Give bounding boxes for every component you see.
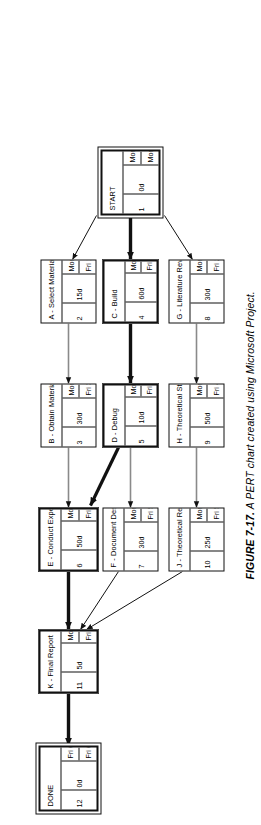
task-name: A - Select Materials [41,260,62,322]
task-id: 3 [62,426,95,446]
task-id: 2 [62,302,95,322]
edge-start-to-g [164,215,192,259]
task-name: B - Obtain Materials [41,384,62,446]
task-dates: Mon 1/1/01 Mon 1/1/01 [123,151,158,164]
task-start: Mon 3/26/01 [125,385,141,396]
task-finish: Fri 1/19/01 [79,260,95,273]
task-finish: Fri 3/2/01 [79,384,95,397]
task-fields: 11 5d Mon 6/25/01 Fri 6/29/01 [61,631,96,691]
edge-f-to-k [80,571,118,629]
task-id: 12 [61,789,96,809]
task-start: Mon 1/1/01 [190,260,207,273]
task-dates: Mon 4/9/01 Fri 5/18/01 [124,508,157,521]
task-duration: 15d [62,273,95,302]
task-dates: Mon 4/9/01 Fri 6/22/01 [61,509,96,520]
task-duration: 30d [62,397,95,426]
task-node-done[interactable]: DONE 12 0d Fri 6/29/01 Fri 6/29/01 [38,745,98,811]
task-dates: Mon 1/22/01 Fri 3/2/01 [62,384,95,397]
task-node-f[interactable]: F - Document Design 7 30d Mon 4/9/01 Fri… [102,507,158,571]
task-fields: 9 50d Mon 2/12/01 Fri 4/20/01 [190,384,223,446]
task-name: START [102,151,123,213]
task-finish: Fri 6/22/01 [79,509,96,520]
task-node-start[interactable]: START 1 0d Mon 1/1/01 Mon 1/1/01 [100,149,160,215]
task-duration: 50d [190,397,223,426]
task-node-c[interactable]: C - Build 4 60d Mon 1/1/01 Fri 3/23/01 [102,259,158,323]
task-start: Mon 4/9/01 [124,508,141,521]
task-id: 8 [190,302,223,322]
task-finish: Fri 3/23/01 [141,261,156,272]
task-dates: Fri 6/29/01 Fri 6/29/01 [61,747,96,760]
task-finish: Fri 4/6/01 [141,385,156,396]
task-finish: Fri 4/20/01 [207,384,223,397]
task-node-e[interactable]: E - Conduct Experiment 6 50d Mon 4/9/01 … [38,507,98,571]
edge-d-to-e [90,447,118,505]
task-fields: 2 15d Mon 1/1/01 Fri 1/19/01 [62,260,95,322]
task-fields: 6 50d Mon 4/9/01 Fri 6/22/01 [61,509,96,569]
task-fields: 10 25d Mon 4/23/01 Fri 5/25/01 [190,508,223,570]
task-duration: 5d [61,642,96,671]
task-dates: Mon 4/23/01 Fri 5/25/01 [190,508,223,521]
task-duration: 30d [190,273,223,302]
task-duration: 10d [125,396,156,425]
task-id: 9 [190,426,223,446]
task-fields: 7 30d Mon 4/9/01 Fri 5/18/01 [124,508,157,570]
task-finish: Fri 6/29/01 [79,631,96,642]
task-fields: 5 10d Mon 3/26/01 Fri 4/6/01 [125,385,156,445]
task-start: Mon 1/22/01 [62,384,79,397]
task-start: Mon 1/1/01 [62,260,79,273]
task-start: Mon 1/1/01 [125,261,141,272]
rotated-figure-container: DONE 12 0d Fri 6/29/01 Fri 6/29/01 K - F… [0,0,261,825]
task-dates: Mon 1/1/01 Fri 3/23/01 [125,261,156,272]
figure-caption: FIGURE 7-17. A PERT chart created using … [244,0,255,579]
task-id: 11 [61,671,96,691]
figure-caption-text: A PERT chart created using Microsoft Pro… [244,291,255,509]
task-fields: 3 30d Mon 1/22/01 Fri 3/2/01 [62,384,95,446]
edge-start-to-a [72,215,96,259]
task-node-a[interactable]: A - Select Materials 2 15d Mon 1/1/01 Fr… [40,259,96,323]
task-dates: Mon 1/1/01 Fri 1/19/01 [62,260,95,273]
task-duration: 60d [125,272,156,301]
task-fields: 12 0d Fri 6/29/01 Fri 6/29/01 [61,747,96,809]
task-name: H - Theoretical Study [169,384,190,446]
task-finish: Fri 5/18/01 [141,508,157,521]
task-duration: 0d [61,760,96,789]
task-node-h[interactable]: H - Theoretical Study 9 50d Mon 2/12/01 … [168,383,224,447]
task-dates: Mon 3/26/01 Fri 4/6/01 [125,385,156,396]
task-fields: 1 0d Mon 1/1/01 Mon 1/1/01 [123,151,158,213]
figure-page: DONE 12 0d Fri 6/29/01 Fri 6/29/01 K - F… [0,0,261,825]
task-start: Mon 6/25/01 [61,631,79,642]
task-duration: 25d [190,521,223,550]
task-node-g[interactable]: G - Literature Review 8 30d Mon 1/1/01 F… [168,259,224,323]
task-start: Mon 1/1/01 [123,151,141,164]
task-dates: Mon 6/25/01 Fri 6/29/01 [61,631,96,642]
task-id: 10 [190,550,223,570]
task-name: J - Theoretical Report [169,508,190,570]
task-name: E - Conduct Experiment [40,509,61,569]
task-fields: 4 60d Mon 1/1/01 Fri 3/23/01 [125,261,156,321]
task-name: D - Debug [104,385,125,445]
task-dates: Mon 1/1/01 Fri 2/9/01 [190,260,223,273]
task-start: Fri 6/29/01 [61,747,79,760]
task-id: 1 [123,193,158,213]
task-start: Mon 4/9/01 [61,509,79,520]
task-node-b[interactable]: B - Obtain Materials 3 30d Mon 1/22/01 F… [40,383,96,447]
task-id: 6 [61,549,96,569]
task-node-d[interactable]: D - Debug 5 10d Mon 3/26/01 Fri 4/6/01 [102,383,158,447]
task-name: C - Build [104,261,125,321]
pert-chart-canvas: DONE 12 0d Fri 6/29/01 Fri 6/29/01 K - F… [0,0,261,825]
task-name: G - Literature Review [169,260,190,322]
task-name: K - Final Report [40,631,61,691]
task-id: 4 [125,301,156,321]
task-node-k[interactable]: K - Final Report 11 5d Mon 6/25/01 Fri 6… [38,629,98,693]
task-name: DONE [40,747,61,809]
task-finish: Fri 5/25/01 [207,508,223,521]
task-finish: Fri 6/29/01 [79,747,96,760]
task-id: 5 [125,425,156,445]
task-fields: 8 30d Mon 1/1/01 Fri 2/9/01 [190,260,223,322]
task-dates: Mon 2/12/01 Fri 4/20/01 [190,384,223,397]
task-finish: Fri 2/9/01 [207,260,223,273]
task-duration: 30d [124,521,157,550]
task-node-j[interactable]: J - Theoretical Report 10 25d Mon 4/23/0… [168,507,224,571]
task-start: Mon 4/23/01 [190,508,207,521]
task-id: 7 [124,550,157,570]
